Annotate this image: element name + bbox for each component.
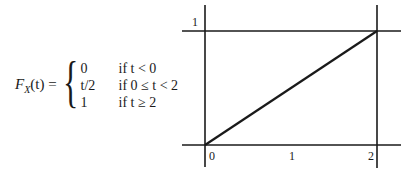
cdf-plot: 1 0 1 2	[0, 0, 419, 173]
x-tick-1: 1	[289, 149, 295, 163]
y-tick-1: 1	[192, 15, 198, 29]
x-tick-2: 2	[368, 149, 374, 163]
cdf-ramp-line	[205, 31, 377, 145]
x-tick-0: 0	[209, 149, 215, 163]
